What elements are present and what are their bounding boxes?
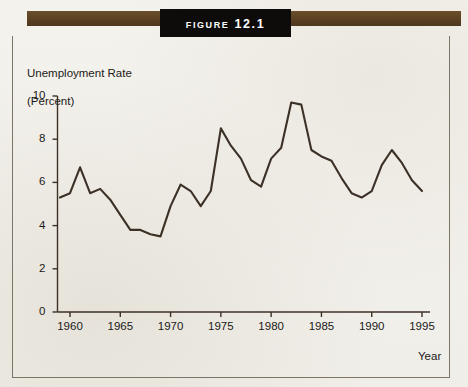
y-tick-label: 8 xyxy=(28,132,46,144)
x-axis-ticks xyxy=(70,312,422,317)
x-tick-label: 1990 xyxy=(352,320,392,332)
x-tick-label: 1975 xyxy=(201,320,241,332)
x-tick-label: 1995 xyxy=(402,320,442,332)
unemployment-rate-line xyxy=(60,102,422,236)
y-tick-label: 2 xyxy=(28,262,46,274)
data-series-group xyxy=(60,102,422,236)
y-tick-label: 4 xyxy=(28,219,46,231)
x-tick-label: 1970 xyxy=(151,320,191,332)
x-tick-label: 1985 xyxy=(301,320,341,332)
x-tick-label: 1980 xyxy=(251,320,291,332)
y-tick-label: 6 xyxy=(28,175,46,187)
y-tick-label: 0 xyxy=(28,305,46,317)
y-axis-ticks xyxy=(53,96,58,312)
x-tick-label: 1965 xyxy=(100,320,140,332)
y-tick-label: 10 xyxy=(28,89,46,101)
x-tick-label: 1960 xyxy=(50,320,90,332)
